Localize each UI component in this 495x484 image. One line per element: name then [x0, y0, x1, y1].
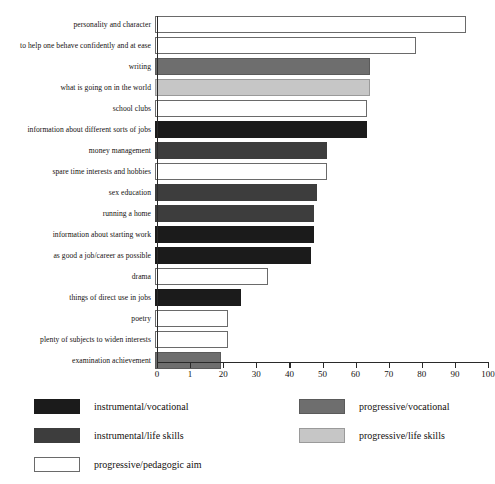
bar-row: information about different sorts of job… [0, 121, 495, 138]
x-axis-tick-label: 30 [252, 369, 261, 379]
bar-category-label: writing [0, 62, 155, 71]
x-axis-tick-label: 50 [318, 369, 327, 379]
legend-column-left: instrumental/vocationalinstrumental/life… [34, 396, 201, 483]
legend-item: instrumental/life skills [34, 425, 201, 445]
bar [155, 205, 314, 222]
bar-category-label: money management [0, 146, 155, 155]
bar-track [155, 16, 495, 33]
bar-track [155, 247, 495, 264]
bar [155, 58, 370, 75]
bar-track [155, 268, 495, 285]
bar-row: writing [0, 58, 495, 75]
bar-category-label: personality and character [0, 20, 155, 29]
bar-track [155, 142, 495, 159]
x-axis-tick-label: 70 [384, 369, 393, 379]
legend-swatch [299, 399, 345, 414]
x-axis-tick [289, 362, 290, 368]
bar [155, 79, 370, 96]
legend-label: progressive/vocational [359, 401, 450, 412]
bar-rows: personality and characterto help one beh… [0, 16, 495, 373]
bar [155, 16, 466, 33]
x-axis-tick-label: 80 [417, 369, 426, 379]
x-axis-tick [455, 362, 456, 368]
bar [155, 100, 367, 117]
bar-track [155, 226, 495, 243]
bar-row: what is going on in the world [0, 79, 495, 96]
x-axis-tick-label: 20 [219, 369, 228, 379]
bar-track [155, 163, 495, 180]
x-axis-tick-label: 90 [450, 369, 459, 379]
legend-label: instrumental/vocational [94, 401, 188, 412]
bar-row: examination achievement [0, 352, 495, 369]
bar [155, 247, 311, 264]
bar-track [155, 100, 495, 117]
x-axis-tick-label: 0 [155, 369, 160, 379]
x-axis-tick [389, 362, 390, 368]
bar-chart: personality and characterto help one beh… [0, 0, 495, 484]
x-axis-tick-label: 1 [188, 369, 193, 379]
bar [155, 289, 241, 306]
x-axis-tick-label: 100 [481, 369, 495, 379]
legend-label: progressive/life skills [359, 430, 445, 441]
legend-label: progressive/pedagogic aim [94, 459, 201, 470]
bar [155, 37, 416, 54]
x-axis-tick [356, 362, 357, 368]
bar-track [155, 310, 495, 327]
bar-category-label: examination achievement [0, 356, 155, 365]
bar-row: information about starting work [0, 226, 495, 243]
legend-swatch [299, 428, 345, 443]
legend-label: instrumental/life skills [94, 430, 184, 441]
bar-track [155, 205, 495, 222]
bar [155, 331, 228, 348]
x-axis-tick [488, 362, 489, 368]
legend-swatch [34, 457, 80, 472]
legend-item: progressive/life skills [299, 425, 450, 445]
bar-category-label: drama [0, 272, 155, 281]
x-axis-tick [190, 362, 191, 368]
bar-category-label: things of direct use in jobs [0, 293, 155, 302]
plot-area: personality and characterto help one beh… [0, 0, 495, 378]
bar-row: money management [0, 142, 495, 159]
x-axis-tick [422, 362, 423, 368]
bar-category-label: poetry [0, 314, 155, 323]
x-axis-tick [157, 362, 158, 368]
bar-category-label: information about starting work [0, 230, 155, 239]
bar-track [155, 289, 495, 306]
bar-track [155, 121, 495, 138]
bar-category-label: school clubs [0, 104, 155, 113]
x-axis-tick [223, 362, 224, 368]
bar-row: personality and character [0, 16, 495, 33]
bar [155, 163, 327, 180]
legend-column-right: progressive/vocationalprogressive/life s… [299, 396, 450, 454]
bar-track [155, 37, 495, 54]
bar-row: sex education [0, 184, 495, 201]
bar-row: running a home [0, 205, 495, 222]
bar-category-label: running a home [0, 209, 155, 218]
bar-row: to help one behave confidently and at ea… [0, 37, 495, 54]
bar-track [155, 58, 495, 75]
bar [155, 310, 228, 327]
x-axis-tick-label: 40 [285, 369, 294, 379]
bar-row: spare time interests and hobbies [0, 163, 495, 180]
bar-row: drama [0, 268, 495, 285]
bar-category-label: plenty of subjects to widen interests [0, 335, 155, 344]
bar-category-label: what is going on in the world [0, 83, 155, 92]
bar-track [155, 331, 495, 348]
bar [155, 184, 317, 201]
legend-swatch [34, 428, 80, 443]
chart-legend: instrumental/vocationalinstrumental/life… [0, 392, 495, 472]
bar-category-label: information about different sorts of job… [0, 125, 155, 134]
legend-swatch [34, 399, 80, 414]
x-axis-tick [256, 362, 257, 368]
bar-row: school clubs [0, 100, 495, 117]
bar [155, 268, 268, 285]
bar-row: as good a job/career as possible [0, 247, 495, 264]
x-axis-tick-label: 60 [351, 369, 360, 379]
bar-row: things of direct use in jobs [0, 289, 495, 306]
bar [155, 121, 367, 138]
bar-track [155, 352, 495, 369]
bar-category-label: spare time interests and hobbies [0, 167, 155, 176]
x-axis-tick [323, 362, 324, 368]
bar [155, 226, 314, 243]
bar-row: plenty of subjects to widen interests [0, 331, 495, 348]
